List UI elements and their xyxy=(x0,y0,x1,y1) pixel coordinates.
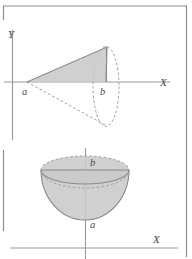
y-axis-label-upper: Y xyxy=(8,28,16,40)
figure-svg: a b Y X b a xyxy=(0,0,192,259)
hemisphere-point-label-b: b xyxy=(90,157,95,168)
cone-point-label-a: a xyxy=(22,86,27,97)
cone-panel: a b Y X xyxy=(4,28,170,140)
hemisphere-point-label-a: a xyxy=(90,219,95,230)
x-axis-label-upper: X xyxy=(159,76,168,88)
x-axis-label-lower: X xyxy=(152,233,161,245)
cone-lower-slant-dashed xyxy=(27,82,107,126)
cone-point-label-b: b xyxy=(100,86,105,97)
hemisphere-panel: b a X xyxy=(10,148,178,259)
figure-canvas: a b Y X b a xyxy=(0,0,192,259)
